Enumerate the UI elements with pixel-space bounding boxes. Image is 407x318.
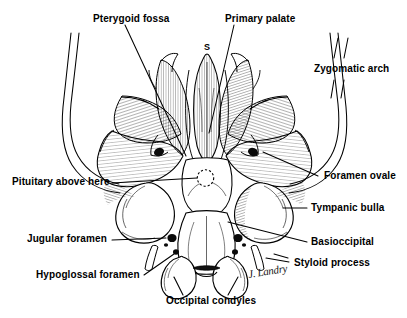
primary-palate-vomer [194,54,221,162]
label-zygomatic-arch: Zygomatic arch [314,64,389,74]
leader-zygomatic-arch-c [331,80,334,98]
leader-zygomatic-arch-a [334,38,338,58]
label-pituitary-above-here: Pituitary above here [12,177,110,187]
label-foramen-ovale: Foramen ovale [324,171,396,181]
anatomical-figure: Pterygoid fossa Primary palate Zygomatic… [0,0,407,318]
label-jugular-foramen: Jugular foramen [27,234,107,244]
label-basioccipital: Basioccipital [311,237,374,247]
foramen-accessory-right [242,243,246,247]
jugular-foramen-right [233,234,242,242]
label-styloid-process: Styloid process [294,258,370,268]
label-primary-palate: Primary palate [225,14,295,24]
foramen-magnum [193,266,220,271]
jugular-foramen-left [167,234,176,242]
foramen-accessory-left [164,243,168,247]
label-hypoglossal-foramen: Hypoglossal foramen [36,270,140,280]
label-occipital-condyles: Occipital condyles [166,296,256,306]
label-pterygoid-fossa: Pterygoid fossa [93,14,170,24]
leader-zygomatic-arch-b [344,38,348,58]
label-tympanic-bulla: Tympanic bulla [311,203,384,213]
label-sphenoid-marker: S [204,43,210,52]
pituitary-fossa-circle [197,170,213,186]
hypoglossal-foramen-right [232,249,238,254]
occipital-condyle-left [161,256,196,299]
occipital-condyle-right [213,256,248,299]
basisphenoid-body [182,158,232,216]
leader-styloid-hook [274,254,288,258]
